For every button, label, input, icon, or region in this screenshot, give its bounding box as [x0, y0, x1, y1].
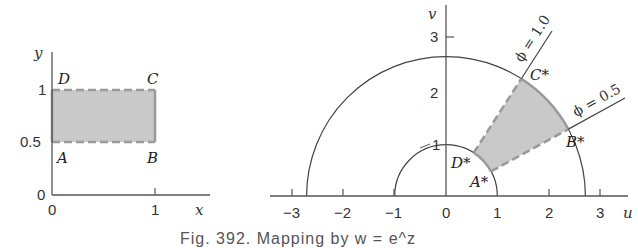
point-label-b-star: B* [565, 133, 585, 151]
y-tick-label-0: 0 [37, 186, 45, 203]
point-label-d: D [57, 70, 70, 88]
point-label-d-star: D* [450, 154, 471, 172]
y-tick-label-05: 0.5 [20, 133, 41, 150]
u-tick-label-0: 0 [442, 204, 450, 221]
u-tick-label-1: 1 [493, 204, 501, 221]
v-tick-label-1: 1 [432, 136, 440, 153]
y-tick-label-1: 1 [38, 81, 46, 98]
figure-caption: Fig. 392. Mapping by w = e^z [180, 230, 416, 248]
u-axis-label: u [623, 204, 633, 222]
right-plot: −3 −2 −1 0 1 2 3 u v 3 2 1 C* B* D* A* ϕ… [270, 5, 633, 222]
v-tick-label-3: 3 [430, 28, 438, 45]
u-tick-label-m2: −2 [334, 204, 351, 221]
u-tick-label-m1: −1 [385, 204, 402, 221]
x-axis-label: x [195, 201, 204, 219]
u-tick-label-2: 2 [545, 204, 553, 221]
v-axis-label: v [428, 5, 437, 23]
rectangle-region [52, 90, 155, 142]
point-label-b: B [146, 149, 158, 167]
u-tick-label-m3: −3 [283, 204, 300, 221]
point-label-c: C [147, 70, 159, 88]
point-label-c-star: C* [530, 66, 549, 84]
x-tick-label-1: 1 [151, 201, 159, 218]
y-axis-label: y [33, 44, 43, 62]
point-label-a-star: A* [468, 173, 489, 191]
u-tick-label-3: 3 [596, 204, 604, 221]
x-tick-label-0: 0 [48, 201, 56, 218]
image-region [474, 79, 569, 172]
left-plot: y x 1 0.5 0 0 1 D C A B [20, 44, 210, 219]
point-label-a: A [55, 149, 68, 167]
v-tick-label-2: 2 [430, 84, 438, 101]
